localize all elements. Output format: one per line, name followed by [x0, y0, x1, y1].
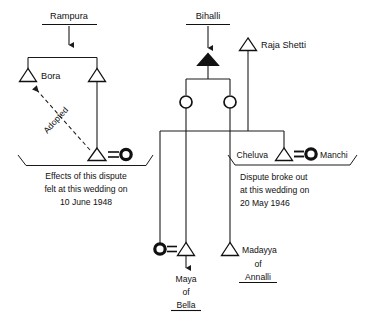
- marriage-right-female-circle-manchi: [306, 149, 316, 159]
- village-label-rampura: Rampura: [50, 11, 89, 21]
- marriage-left-female-circle: [121, 149, 131, 159]
- person-symbol-bora-male-triangle: [20, 69, 37, 82]
- diagram-canvas: Rampura Bora Adopted Effects of this dis…: [0, 0, 365, 324]
- person-symbol-bihalli-daughter-1-circle: [180, 96, 192, 108]
- marriage-right-male-triangle-cheluva: [276, 148, 293, 161]
- person-label-maya-name: Maya: [175, 274, 196, 284]
- village-label-bihalli: Bihalli: [196, 11, 221, 21]
- person-symbol-bihalli-male-filled-triangle: [198, 54, 219, 66]
- left-caption-brace: [18, 155, 153, 166]
- person-symbol-rampura-brother-male-triangle: [89, 69, 106, 82]
- person-label-madayya-name: Madayya: [242, 245, 277, 255]
- marriage-left-male-triangle: [88, 148, 106, 161]
- person-label-raja-shetti: Raja Shetti: [261, 40, 306, 50]
- right-caption-line3: 20 May 1946: [240, 198, 290, 208]
- person-symbol-raja-shetti-male-triangle: [240, 38, 257, 51]
- person-label-maya-of: of: [182, 287, 190, 297]
- person-label-madayya-place: Annalli: [245, 272, 271, 282]
- left-caption-line2: felt at this wedding on: [44, 184, 127, 194]
- person-label-maya-place: Bella: [176, 300, 195, 310]
- person-label-cheluva: Cheluva: [236, 150, 268, 160]
- right-caption-line1: Dispute broke out: [240, 172, 308, 182]
- bottom-marriage-female-circle: [155, 244, 165, 254]
- right-caption-line2: at this wedding on: [240, 185, 309, 195]
- left-caption-line1: Effects of this dispute: [45, 171, 127, 181]
- left-caption-line3: 10 June 1948: [60, 197, 112, 207]
- person-label-bora: Bora: [41, 71, 61, 81]
- person-label-manchi: Manchi: [320, 150, 348, 160]
- bottom-marriage-male-triangle: [178, 243, 195, 256]
- adoption-label: Adopted: [41, 105, 70, 136]
- kinship-diagram: Rampura Bora Adopted Effects of this dis…: [0, 0, 365, 324]
- person-symbol-bihalli-daughter-2-circle: [224, 96, 236, 108]
- person-symbol-madayya-male-triangle: [222, 243, 239, 256]
- person-label-madayya-of: of: [254, 259, 262, 269]
